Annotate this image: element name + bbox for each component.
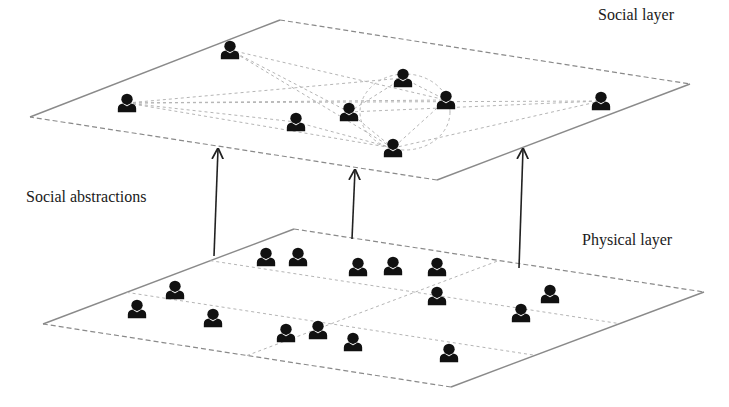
person-icon [287,113,305,132]
person-icon [128,300,146,319]
person-icon [541,285,559,304]
social-plane-edge [30,117,437,180]
person-icon [277,324,295,343]
physical-plane-edge [451,292,704,387]
physical-layer-label: Physical layer [582,231,672,249]
person-icon [166,281,184,300]
social-layer-label: Social layer [598,6,674,24]
person-icon [428,258,446,277]
person-icon [221,41,239,60]
abstraction-arrow [519,149,523,268]
social-plane-edge [437,84,690,180]
person-icon [428,287,446,306]
person-icon [384,139,402,158]
person-icon [512,304,530,323]
social-persons [118,41,610,158]
social-link [349,101,601,112]
abstraction-arrow [214,149,218,256]
person-icon [204,309,222,328]
person-icon [309,321,327,340]
social-link [393,101,601,148]
person-icon [257,248,275,267]
physical-plane-edge [43,229,294,324]
person-icon [440,344,458,363]
person-icon [349,258,367,277]
social-plane-edge [280,20,690,84]
abstraction-arrow [352,170,355,239]
person-icon [394,69,412,88]
social-abstractions-label: Social abstractions [26,188,146,206]
social-link [230,50,393,148]
social-link [296,122,393,148]
physical-persons [128,248,559,363]
physical-grid [127,261,620,356]
person-icon [384,257,402,276]
person-icon [592,92,610,111]
abstraction-arrows [214,149,523,268]
social-link [127,78,403,103]
person-icon [344,333,362,352]
social-link [127,103,296,122]
physical-layer-plane [43,229,704,387]
person-icon [289,248,307,267]
social-links [127,50,601,150]
